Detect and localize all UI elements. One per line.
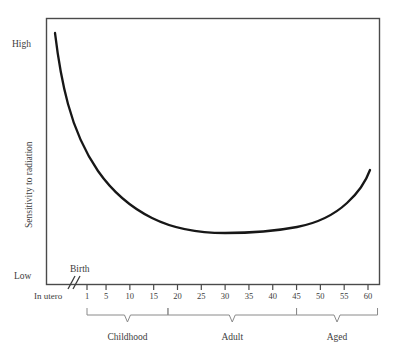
stage-brackets	[87, 308, 378, 322]
x-axis-tick-label: 45	[292, 291, 301, 301]
stage-bracket	[297, 308, 378, 322]
stage-bracket-label: Childhood	[107, 332, 147, 342]
plot-frame	[47, 19, 380, 285]
chart-canvas: High Low Sensitivity to radiation In ute…	[0, 0, 401, 361]
x-axis-tick-label: 30	[221, 291, 230, 301]
birth-label: Birth	[70, 264, 90, 274]
x-axis-tick-label: 50	[316, 291, 325, 301]
x-axis-tick-label: 25	[197, 291, 206, 301]
x-axis-tick-label: 15	[149, 291, 158, 301]
in-utero-label: In utero	[34, 291, 63, 301]
x-axis-tick-label: 5	[104, 291, 108, 301]
x-axis-tick-label: 20	[173, 291, 182, 301]
stage-bracket-label: Aged	[327, 332, 348, 342]
stage-bracket-labels: ChildhoodAdultAged	[107, 332, 347, 342]
y-axis-low-label: Low	[14, 271, 32, 281]
x-axis-tick-label: 55	[340, 291, 349, 301]
x-axis-ticks	[87, 285, 368, 290]
sensitivity-curve	[55, 33, 370, 233]
x-axis-tick-labels: 151015202530354045505560	[85, 291, 372, 301]
y-axis-title: Sensitivity to radiation	[24, 141, 34, 228]
x-axis-tick-label: 35	[245, 291, 254, 301]
x-axis-tick-label: 40	[268, 291, 277, 301]
stage-bracket	[168, 308, 297, 322]
stage-bracket	[87, 308, 168, 322]
x-axis-tick-label: 60	[364, 291, 373, 301]
x-axis-tick-label: 10	[126, 291, 135, 301]
y-axis-high-label: High	[12, 39, 31, 49]
x-axis-tick-label: 1	[85, 291, 89, 301]
stage-bracket-label: Adult	[221, 332, 243, 342]
radiation-sensitivity-chart: High Low Sensitivity to radiation In ute…	[0, 0, 401, 361]
